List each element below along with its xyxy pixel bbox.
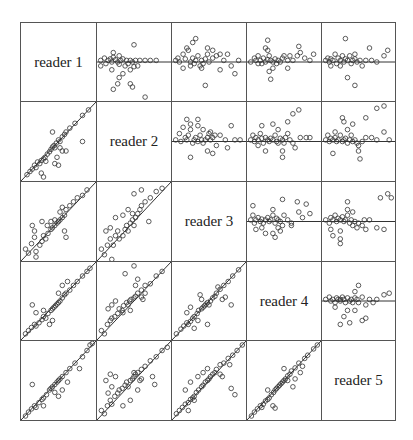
data-point bbox=[135, 277, 140, 282]
data-point bbox=[150, 374, 155, 379]
data-point bbox=[356, 283, 361, 288]
data-point bbox=[201, 127, 206, 132]
data-point bbox=[280, 155, 285, 160]
data-point bbox=[160, 186, 165, 191]
data-point bbox=[121, 213, 126, 218]
data-point bbox=[331, 151, 336, 156]
data-point bbox=[338, 133, 343, 138]
data-point bbox=[65, 380, 70, 385]
data-point bbox=[271, 207, 276, 212]
data-point bbox=[55, 155, 60, 160]
data-point bbox=[297, 210, 302, 215]
variable-label: reader 3 bbox=[172, 182, 246, 261]
data-point bbox=[382, 130, 387, 135]
scatter-panel-lower bbox=[20, 101, 97, 182]
scatter-panel-lower bbox=[96, 340, 172, 421]
data-point bbox=[44, 237, 49, 242]
data-point bbox=[282, 366, 287, 371]
data-point bbox=[285, 120, 290, 125]
data-point bbox=[128, 68, 133, 73]
data-point bbox=[117, 75, 122, 80]
data-point bbox=[375, 106, 380, 111]
scatter-panel-lower bbox=[171, 340, 247, 421]
data-point bbox=[196, 318, 201, 323]
data-point bbox=[199, 297, 204, 302]
data-point bbox=[302, 56, 307, 61]
data-point bbox=[385, 48, 390, 53]
data-point bbox=[298, 50, 303, 55]
data-point bbox=[58, 210, 63, 215]
data-point bbox=[364, 135, 369, 140]
data-point bbox=[104, 229, 109, 234]
data-point bbox=[389, 196, 394, 201]
data-point bbox=[382, 104, 387, 109]
data-point bbox=[198, 293, 203, 298]
data-point bbox=[130, 211, 135, 216]
data-point bbox=[41, 308, 46, 313]
data-point bbox=[353, 289, 358, 294]
scatter-panel-lower bbox=[20, 261, 97, 341]
data-point bbox=[133, 283, 138, 288]
variable-label: reader 4 bbox=[247, 262, 321, 340]
data-point bbox=[218, 68, 223, 73]
data-point bbox=[111, 50, 116, 55]
data-point bbox=[311, 52, 316, 57]
data-point bbox=[60, 205, 65, 210]
scatter-panel-upper bbox=[96, 22, 172, 102]
scatter-panel-upper bbox=[171, 22, 247, 102]
data-point bbox=[117, 54, 122, 59]
data-point bbox=[201, 370, 206, 375]
data-point bbox=[188, 380, 193, 385]
data-point bbox=[353, 52, 358, 57]
data-point bbox=[229, 123, 234, 128]
data-point bbox=[34, 310, 39, 315]
data-point bbox=[113, 299, 118, 304]
diagonal-label-cell: reader 3 bbox=[171, 181, 247, 262]
data-point bbox=[121, 404, 126, 409]
identity-line bbox=[21, 262, 96, 340]
data-point bbox=[214, 143, 219, 148]
data-point bbox=[75, 196, 80, 201]
scatter-panel-lower bbox=[96, 181, 172, 262]
data-point bbox=[121, 71, 126, 76]
data-point bbox=[62, 229, 67, 234]
data-point bbox=[113, 215, 118, 220]
data-point bbox=[68, 203, 73, 208]
variable-label: reader 2 bbox=[97, 102, 171, 181]
data-point bbox=[30, 223, 35, 228]
data-point bbox=[196, 54, 201, 59]
data-point bbox=[32, 229, 37, 234]
data-point bbox=[345, 75, 350, 80]
identity-scatter-plot bbox=[247, 341, 321, 420]
data-point bbox=[186, 408, 191, 413]
data-point bbox=[358, 157, 363, 162]
data-point bbox=[205, 52, 210, 57]
data-point bbox=[375, 226, 380, 231]
difference-scatter-plot bbox=[322, 23, 395, 101]
data-point bbox=[139, 203, 144, 208]
scatter-panel-lower bbox=[20, 181, 97, 262]
data-point bbox=[205, 366, 210, 371]
data-point bbox=[188, 122, 193, 127]
data-point bbox=[77, 366, 82, 371]
data-point bbox=[260, 123, 265, 128]
identity-scatter-plot bbox=[21, 341, 96, 420]
data-point bbox=[143, 291, 148, 296]
data-point bbox=[188, 155, 193, 160]
data-point bbox=[198, 133, 203, 138]
data-point bbox=[30, 382, 35, 387]
data-point bbox=[251, 213, 256, 218]
data-point bbox=[41, 404, 46, 409]
data-point bbox=[265, 388, 270, 393]
data-point bbox=[58, 146, 63, 151]
data-point bbox=[229, 386, 234, 391]
data-point bbox=[254, 227, 259, 232]
data-point bbox=[105, 404, 110, 409]
data-point bbox=[60, 283, 65, 288]
data-point bbox=[185, 117, 190, 122]
data-point bbox=[288, 54, 293, 59]
scatterplot-matrix: reader 1reader 2reader 3reader 4reader 5 bbox=[20, 22, 395, 420]
data-point bbox=[205, 322, 210, 327]
data-point bbox=[225, 52, 230, 57]
data-point bbox=[350, 122, 355, 127]
